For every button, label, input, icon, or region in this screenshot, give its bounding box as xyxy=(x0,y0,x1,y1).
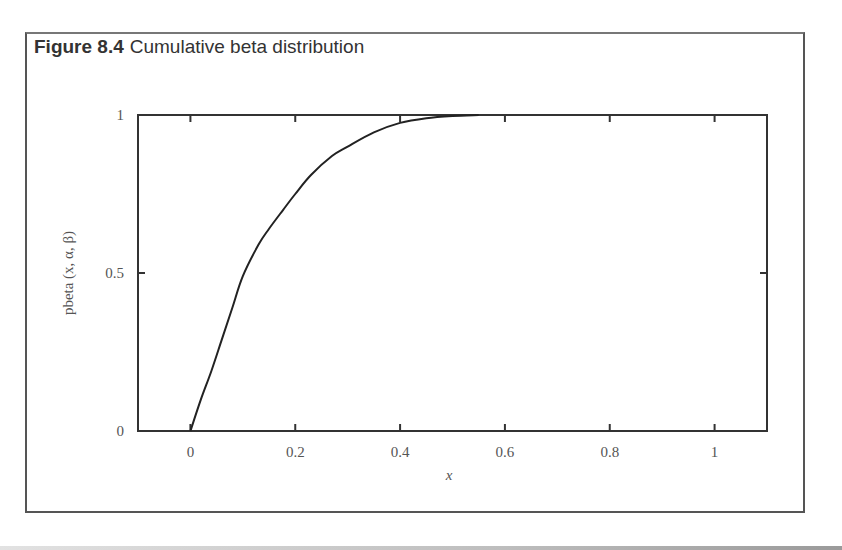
axis-ticks xyxy=(138,115,767,431)
x-tick-label: 0 xyxy=(187,444,195,460)
x-tick-labels: 00.20.40.60.81 xyxy=(187,444,719,460)
x-tick-label: 0.2 xyxy=(286,444,305,460)
x-tick-label: 0.4 xyxy=(391,444,410,460)
plot-area xyxy=(138,115,767,431)
y-tick-label: 0.5 xyxy=(105,265,124,281)
x-tick-label: 0.6 xyxy=(496,444,515,460)
chart: 00.20.40.60.81 00.51 x pbeta (x, α, β) xyxy=(0,0,842,550)
page-divider xyxy=(0,546,842,550)
x-tick-label: 0.8 xyxy=(600,444,619,460)
y-tick-label: 0 xyxy=(117,423,125,439)
cdf-curve xyxy=(190,115,478,431)
x-axis-label: x xyxy=(445,467,453,483)
y-tick-label: 1 xyxy=(117,107,125,123)
y-tick-labels: 00.51 xyxy=(105,107,124,439)
y-axis-label: pbeta (x, α, β) xyxy=(60,231,77,315)
x-tick-label: 1 xyxy=(711,444,719,460)
